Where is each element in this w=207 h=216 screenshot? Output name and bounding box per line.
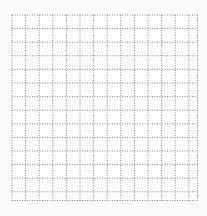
dotted-grid <box>0 0 207 216</box>
grid-area <box>12 15 198 201</box>
page-background <box>0 0 207 216</box>
